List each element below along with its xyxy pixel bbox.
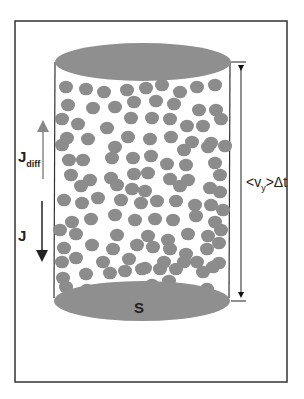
particle: [55, 113, 69, 126]
particle: [166, 214, 180, 227]
particle: [103, 267, 117, 280]
particle: [190, 81, 204, 94]
particle: [134, 197, 148, 210]
particles: [53, 79, 232, 298]
particle: [114, 194, 128, 207]
particle: [204, 199, 218, 212]
particle: [139, 82, 153, 95]
particle: [69, 228, 83, 241]
particle: [124, 112, 138, 125]
particle: [130, 239, 144, 252]
particle: [153, 263, 167, 276]
particle: [138, 185, 152, 198]
particle: [167, 98, 181, 111]
particle: [200, 243, 214, 256]
particle: [74, 180, 88, 193]
j-label: J: [18, 227, 26, 244]
particle: [141, 167, 155, 180]
particle: [91, 192, 105, 205]
particle: [214, 113, 228, 126]
particle: [164, 131, 178, 144]
particle: [110, 229, 124, 242]
particle: [57, 242, 71, 255]
particle: [86, 102, 100, 115]
particle: [160, 158, 174, 171]
particle: [208, 157, 222, 170]
particle: [69, 252, 83, 265]
particle: [100, 122, 114, 135]
particle: [96, 256, 110, 269]
particle: [120, 84, 134, 97]
particle: [149, 95, 163, 108]
particle: [57, 194, 71, 207]
particle: [188, 199, 202, 212]
particle: [218, 140, 232, 153]
particle: [125, 183, 139, 196]
particle: [64, 169, 78, 182]
particle: [144, 150, 158, 163]
particle: [121, 131, 135, 144]
particle: [143, 133, 157, 146]
particle: [141, 230, 155, 243]
particle: [145, 112, 159, 125]
particle: [59, 81, 73, 94]
diagram-canvas: S <vy>Δt Jdiff J: [0, 0, 304, 399]
particle: [173, 86, 187, 99]
particle: [55, 139, 69, 152]
particle: [108, 209, 122, 222]
particle: [76, 154, 90, 167]
particle: [79, 268, 93, 281]
cylinder-left-wall: [54, 62, 55, 298]
particle: [118, 265, 132, 278]
particle: [61, 99, 75, 112]
particle: [127, 96, 141, 109]
particle: [108, 101, 122, 114]
j-diff-label-sub: diff: [26, 159, 41, 169]
particle: [106, 243, 120, 256]
particle: [181, 228, 195, 241]
particle: [196, 120, 210, 133]
particle: [135, 263, 149, 276]
height-label: <vy>Δt: [246, 174, 287, 193]
particle: [163, 113, 177, 126]
particle: [97, 86, 111, 99]
particle: [214, 224, 228, 237]
particle: [55, 256, 69, 269]
particle: [206, 261, 220, 274]
top-surface-ellipse: [55, 43, 231, 81]
particle: [81, 133, 95, 146]
particle: [85, 239, 99, 252]
j-diff-label-main: J: [18, 148, 26, 165]
particle: [180, 120, 194, 133]
particle: [108, 141, 122, 154]
particle: [150, 195, 164, 208]
particle: [173, 180, 187, 193]
cylinder-right-wall: [229, 62, 230, 298]
particle: [62, 154, 76, 167]
particle: [169, 195, 183, 208]
particle: [201, 141, 215, 154]
particle: [192, 104, 206, 117]
height-label-suffix: >Δt: [266, 174, 288, 190]
particle: [127, 168, 141, 181]
particle: [212, 237, 226, 250]
particle: [189, 210, 203, 223]
particle: [126, 152, 140, 165]
particle: [216, 204, 230, 217]
particle: [177, 144, 191, 157]
particle: [84, 213, 98, 226]
particle: [213, 186, 227, 199]
particle: [148, 213, 162, 226]
particle: [163, 243, 177, 256]
particle: [213, 169, 227, 182]
particle: [208, 79, 222, 92]
j-diff-label: Jdiff: [18, 148, 41, 169]
particle: [105, 152, 119, 165]
particle: [122, 253, 136, 266]
particle: [128, 214, 142, 227]
particle: [71, 118, 85, 131]
particle: [75, 197, 89, 210]
particle: [110, 179, 124, 192]
surface-label: S: [134, 299, 144, 316]
particle: [179, 159, 193, 172]
